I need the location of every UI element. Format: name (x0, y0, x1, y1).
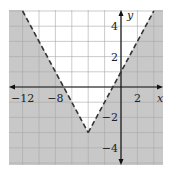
y-axis-label: y (126, 9, 134, 22)
y-tick-label: −2 (102, 111, 118, 124)
y-tick-label: 4 (111, 20, 118, 33)
x-tick-label: −12 (11, 92, 34, 105)
x-axis-label: x (157, 92, 164, 105)
x-tick-label: 2 (134, 92, 141, 105)
y-tick-label: 2 (111, 51, 118, 64)
y-tick-label: −4 (102, 142, 118, 155)
x-tick-label: −8 (47, 92, 63, 105)
inequality-graph: −12−8242−2−4xy (0, 0, 171, 171)
